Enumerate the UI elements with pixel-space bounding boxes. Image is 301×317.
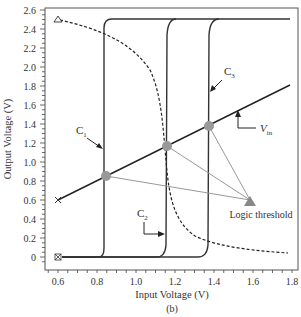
y-tick-label: 0.8: [24, 176, 37, 187]
y-tick-labels: 00.20.40.60.81.01.21.41.61.82.02.22.42.6: [24, 5, 37, 263]
arrow-vin: [238, 116, 256, 128]
y-tick-label: 0.4: [24, 214, 37, 225]
plot-frame: [45, 8, 298, 270]
label-c3: C3: [224, 65, 235, 80]
intersection-c3: [204, 121, 214, 131]
y-tick-label: 1.4: [24, 119, 37, 130]
x-tick-label: 1.8: [286, 276, 299, 287]
open-triangle-marker: [54, 16, 62, 22]
y-tick-label: 2.2: [24, 43, 37, 54]
y-tick-label: 1.8: [24, 81, 37, 92]
x-tick-label: 1.4: [208, 276, 221, 287]
chart: 00.20.40.60.81.01.21.41.61.82.02.22.42.6…: [0, 0, 301, 317]
arrowhead-c1-icon: [96, 143, 103, 149]
x-marker: [55, 197, 61, 203]
label-vin: Vin: [260, 122, 273, 137]
y-axis-title: Output Voltage (V): [2, 98, 14, 179]
x-tick-label: 0.8: [91, 276, 104, 287]
y-tick-label: 1.0: [24, 157, 37, 168]
x-axis-title: Input Voltage (V): [135, 289, 209, 301]
x-tick-label: 0.6: [52, 276, 65, 287]
label-c1: C1: [76, 124, 87, 139]
y-tick-label: 2.4: [24, 24, 37, 35]
y-axis: [40, 10, 45, 262]
logic-threshold-lines: [106, 126, 250, 200]
intersection-c2: [162, 141, 172, 151]
x-tick-label: 1.0: [130, 276, 143, 287]
x-tick-label: 1.2: [169, 276, 182, 287]
caption: (b): [166, 303, 178, 315]
curve-c2: [62, 19, 176, 257]
arrowhead-c3-icon: [210, 85, 216, 92]
y-tick-label: 0.6: [24, 195, 37, 206]
y-tick-label: 0.2: [24, 233, 37, 244]
y-tick-label: 0: [31, 252, 36, 263]
label-c2: C2: [137, 207, 148, 222]
logic-threshold-label: Logic threshold: [229, 209, 292, 220]
x-tick-label: 1.6: [247, 276, 260, 287]
arrowhead-c2-icon: [158, 231, 165, 237]
curve-c1: [62, 19, 290, 257]
y-tick-label: 1.2: [24, 138, 37, 149]
arrow-c2: [144, 222, 160, 234]
x-tick-labels: 0.60.81.01.21.41.61.8: [52, 276, 299, 287]
boxed-x-marker: [55, 254, 61, 260]
y-tick-label: 2.6: [24, 5, 37, 16]
y-tick-label: 1.6: [24, 100, 37, 111]
intersection-c1: [101, 171, 111, 181]
y-tick-label: 2.0: [24, 62, 37, 73]
